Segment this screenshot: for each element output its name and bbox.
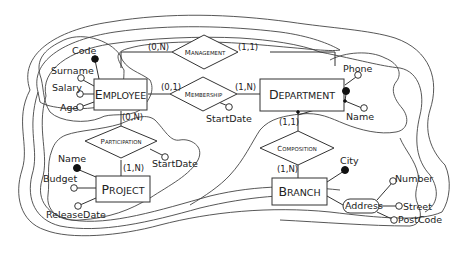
attribute-code: Code [72, 45, 96, 56]
attribute-phone: Phone [343, 63, 373, 74]
line-department-name [345, 101, 362, 108]
relationship-membership-label: MEMBERSHIP [185, 91, 223, 99]
relationship-participation[interactable]: PARTICIPATION [85, 126, 157, 158]
identifier-junction-dot [344, 100, 347, 103]
line-management-department [270, 52, 335, 66]
attribute-postcode: PostCode [398, 214, 442, 225]
cardinality-membership-department: (1,N) [235, 82, 256, 92]
line-branch-address [327, 196, 343, 205]
line-branch-city [327, 171, 344, 182]
entity-project[interactable]: PROJECT [96, 176, 150, 202]
attribute-number: Number [395, 173, 433, 184]
attribute-circle-street [396, 203, 403, 210]
entity-department-label: DEPARTMENT [269, 87, 335, 102]
attribute-surname: Surname [51, 65, 94, 76]
attribute-department-name: Name [346, 111, 374, 122]
line-employee-code [95, 60, 99, 79]
attribute-circle-budget [71, 185, 78, 192]
attribute-circle-membership-startdate [226, 104, 233, 111]
cardinality-participation-project: (1,N) [123, 163, 144, 173]
attribute-salary: Salary [52, 82, 82, 93]
cardinality-management-department: (1,1) [238, 42, 258, 52]
attribute-city: City [340, 155, 359, 166]
line-project-releasedate [80, 198, 96, 205]
attribute-address: Address [345, 200, 383, 211]
attribute-budget: Budget [43, 173, 77, 184]
relationship-participation-label: PARTICIPATION [100, 138, 141, 146]
relationship-management[interactable]: MANAGEMENT [172, 35, 238, 69]
line-address-postcode [377, 212, 392, 219]
cardinality-composition-branch: (1,N) [277, 164, 298, 174]
identifier-dot-code [92, 56, 99, 63]
attribute-membership-startdate: StartDate [206, 113, 252, 124]
entity-department[interactable]: DEPARTMENT [260, 79, 344, 111]
er-diagram: EMPLOYEE DEPARTMENT PROJECT BRANCH MANAG… [0, 0, 459, 254]
external-id-junction-dot [297, 111, 300, 114]
cardinality-membership-employee: (0,1) [161, 82, 181, 92]
entity-employee-label: EMPLOYEE [95, 87, 147, 102]
entity-project-label: PROJECT [102, 182, 145, 197]
line-employee-surname [83, 80, 94, 86]
relationship-management-label: MANAGEMENT [185, 49, 226, 57]
cardinality-management-employee: (0,N) [148, 42, 169, 52]
entity-branch[interactable]: BRANCH [272, 178, 327, 205]
relationship-composition[interactable]: COMPOSITION [260, 131, 334, 165]
identifier-dot-department [343, 88, 350, 95]
attribute-circle-postcode [391, 217, 398, 224]
attribute-releasedate: ReleaseDate [46, 209, 106, 220]
attribute-project-name: Name [58, 153, 86, 164]
attribute-street: Street [403, 201, 432, 212]
line-employee-age [83, 102, 94, 106]
attribute-participation-startdate: StartDate [152, 158, 198, 169]
entity-employee[interactable]: EMPLOYEE [94, 79, 147, 110]
line-department-phone [345, 77, 356, 85]
attribute-age: Age [60, 102, 79, 113]
line-address-number [377, 183, 392, 200]
cardinality-participation-employee: (0,N) [122, 112, 143, 122]
identifier-dot-project-name [74, 165, 81, 172]
line-employee-management [121, 52, 172, 68]
cardinality-composition-department: (1,1) [279, 117, 299, 127]
identifier-dot-city [342, 167, 349, 174]
entity-branch-label: BRANCH [278, 184, 320, 199]
relationship-composition-label: COMPOSITION [277, 145, 317, 153]
